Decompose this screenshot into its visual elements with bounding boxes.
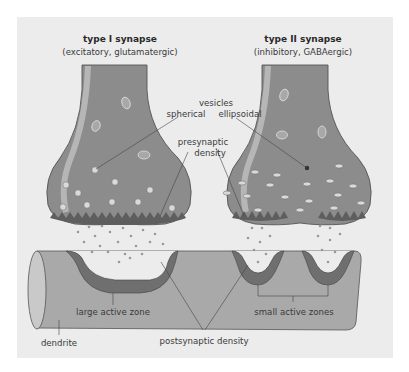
type1-terminal bbox=[47, 65, 191, 225]
type1-subtitle: (excitatory, glutamatergic) bbox=[62, 47, 177, 57]
presynaptic-density-label-line2: density bbox=[194, 148, 226, 158]
presynaptic-density-label-line1: presynaptic bbox=[178, 137, 229, 147]
type2-title: type II synapse bbox=[264, 34, 341, 44]
ellipsoidal-label: ellipsoidal bbox=[218, 109, 261, 119]
type2-terminal bbox=[223, 65, 371, 225]
large-active-zone-label: large active zone bbox=[76, 307, 150, 317]
postsynaptic-density-label: postsynaptic density bbox=[159, 336, 248, 346]
dendrite-label: dendrite bbox=[41, 338, 77, 348]
vesicles-label: vesicles bbox=[199, 98, 234, 108]
small-active-zones-label: small active zones bbox=[254, 307, 334, 317]
type2-subtitle: (inhibitory, GABAergic) bbox=[254, 47, 352, 57]
synapse-diagram: type I synapse (excitatory, glutamatergi… bbox=[0, 0, 409, 372]
type1-title: type I synapse bbox=[83, 34, 157, 44]
spherical-label: spherical bbox=[167, 109, 206, 119]
